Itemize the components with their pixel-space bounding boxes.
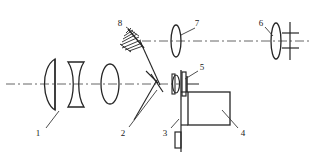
label-5: 5 [200,62,205,72]
label-4: 4 [241,128,246,138]
lower-stop-group [175,125,181,152]
label-3: 3 [163,128,168,138]
optical-axis-group [6,41,312,84]
leader-3 [171,119,179,128]
beamsplitter [151,74,163,92]
optical-system-diagram: 1 2 3 4 5 6 7 8 [0,0,317,160]
beam-path-splitter-down-left [134,80,157,120]
beamsplitter-group [134,41,163,120]
label-1: 1 [36,128,41,138]
leader-line-group [46,27,273,128]
leader-1 [46,111,59,128]
optical-schematic-canvas: 1 2 3 4 5 6 7 8 [0,0,317,160]
label-6: 6 [259,18,264,28]
label-8: 8 [118,18,123,28]
leader-7 [181,28,195,35]
field-lens-assembly [172,70,199,100]
lower-aperture-stop [175,132,181,148]
leader-2 [129,90,157,127]
label-2: 2 [121,128,126,138]
detector-housing [188,92,230,125]
detector-group [181,92,230,125]
label-7: 7 [195,18,200,28]
leader-5 [185,71,198,79]
